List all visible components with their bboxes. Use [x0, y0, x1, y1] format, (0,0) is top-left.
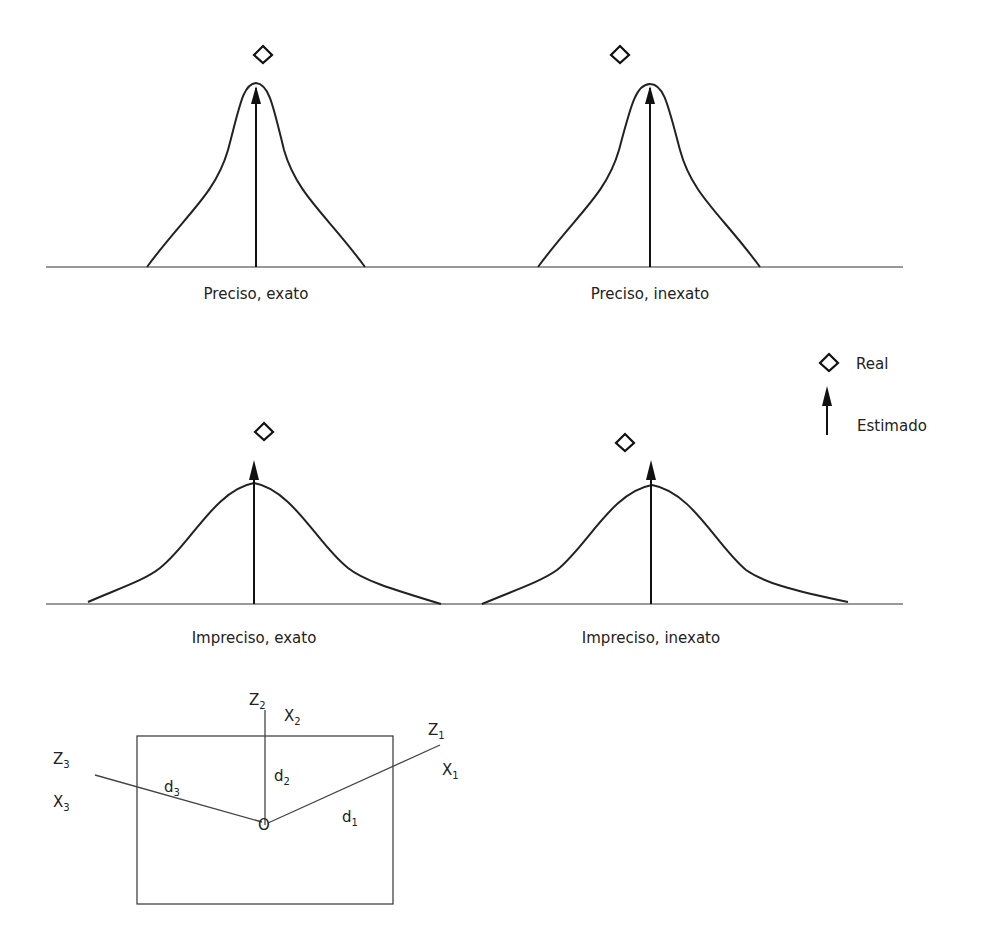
- real-diamond-icon: [255, 423, 273, 440]
- panel-precise-accurate: Preciso, exato: [46, 46, 903, 303]
- panel-caption: Preciso, inexato: [591, 285, 710, 303]
- real-diamond-icon: [611, 46, 629, 63]
- distance-d3-label: d3: [164, 778, 180, 798]
- axis-z1-label: Z1: [428, 721, 445, 741]
- axis-1: [268, 745, 440, 823]
- legend-real-label: Real: [856, 355, 888, 373]
- geometry-labels: O Z2 X2 d2 Z1 X1 d1 Z3 X3 d3: [53, 691, 459, 834]
- origin-label: O: [258, 816, 270, 834]
- panel-imprecise-accurate: Impreciso, exato: [46, 423, 903, 647]
- distribution-curve: [88, 483, 441, 604]
- panel-precise-inaccurate: Preciso, inexato: [538, 46, 760, 303]
- legend-estimado-label: Estimado: [857, 417, 927, 435]
- panel-caption: Impreciso, inexato: [582, 629, 720, 647]
- panel-caption: Preciso, exato: [204, 285, 309, 303]
- panel-imprecise-inaccurate: Impreciso, inexato: [482, 434, 848, 647]
- axis-x2-label: X2: [284, 707, 301, 727]
- axis-z3-label: Z3: [53, 750, 70, 770]
- axis-x3-label: X3: [53, 793, 70, 813]
- distribution-curve: [482, 485, 848, 604]
- axis-3: [95, 775, 262, 822]
- distance-d1-label: d1: [342, 808, 358, 828]
- diagram-canvas: Preciso, exato Preciso, inexato Real Est…: [0, 0, 981, 941]
- axis-z2-label: Z2: [249, 691, 266, 711]
- real-diamond-icon: [254, 46, 272, 63]
- panel-caption: Impreciso, exato: [192, 629, 317, 647]
- legend: Real Estimado: [820, 354, 927, 435]
- axis-x1-label: X1: [442, 761, 459, 781]
- diamond-icon: [820, 354, 838, 371]
- real-diamond-icon: [616, 434, 634, 451]
- distance-d2-label: d2: [274, 767, 290, 787]
- geometry-diagram: [95, 710, 440, 904]
